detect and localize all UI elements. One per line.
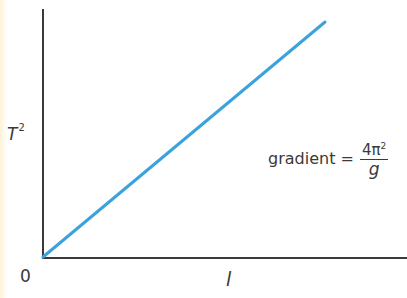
- x-axis-label: l: [226, 268, 231, 290]
- pendulum-graph: T2 0 l gradient = 4π2 g: [0, 0, 407, 298]
- gradient-text: gradient =: [268, 149, 354, 168]
- fraction-denominator: g: [369, 160, 380, 179]
- gradient-fraction: 4π2 g: [360, 138, 388, 179]
- gradient-annotation: gradient = 4π2 g: [268, 138, 388, 179]
- fraction-numerator: 4π2: [360, 138, 388, 160]
- y-axis-label: T2: [7, 122, 25, 144]
- origin-label: 0: [20, 266, 31, 286]
